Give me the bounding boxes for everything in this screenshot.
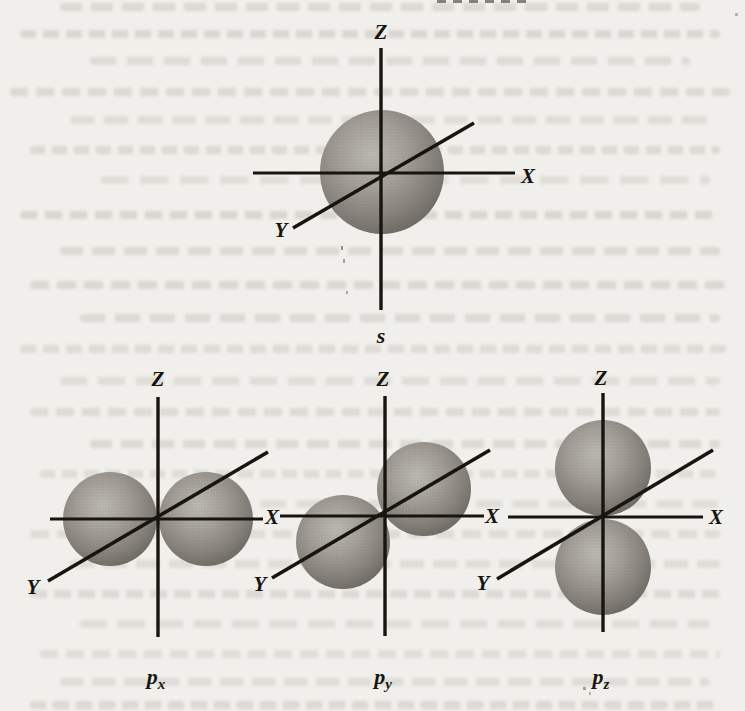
py-lobe-lower-texture <box>296 495 390 589</box>
caption-base: p <box>372 664 385 689</box>
x-axis-label: X <box>708 505 724 529</box>
pz-orbital-diagram: Z X Y pz <box>477 366 724 692</box>
caption-base: s <box>376 323 386 348</box>
y-axis-label: Y <box>254 572 269 596</box>
py-orbital-diagram: Z X Y py <box>254 367 500 692</box>
y-axis-label: Y <box>477 571 492 595</box>
caption-subscript: z <box>603 676 610 692</box>
caption-subscript: y <box>383 676 392 692</box>
s-orbital-diagram: Z X Y s <box>253 20 536 348</box>
z-axis-label: Z <box>376 367 390 391</box>
z-axis-label: Z <box>374 20 388 44</box>
py-orbital-caption: py <box>372 664 392 692</box>
z-axis-label: Z <box>594 366 608 390</box>
y-axis-label: Y <box>275 218 290 242</box>
z-axis-label: Z <box>151 367 165 391</box>
scanned-book-figure: Z X Y s Z X Y px <box>0 0 745 711</box>
orbital-diagrams-svg: Z X Y s Z X Y px <box>0 0 745 711</box>
px-orbital-diagram: Z X Y px <box>27 367 280 692</box>
x-axis-label: X <box>520 164 536 188</box>
pz-orbital-caption: pz <box>591 664 610 692</box>
caption-subscript: x <box>157 676 166 692</box>
px-orbital-caption: px <box>145 664 166 692</box>
s-orbital-caption: s <box>376 323 386 348</box>
caption-base: p <box>145 664 158 689</box>
x-axis-label: X <box>264 505 280 529</box>
y-axis-label: Y <box>27 575 42 599</box>
caption-base: p <box>591 664 604 689</box>
x-axis-label: X <box>484 504 500 528</box>
